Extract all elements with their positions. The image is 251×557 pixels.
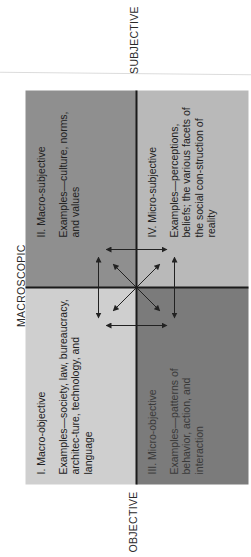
top-rule-line [0, 72, 251, 76]
quadrant-title: I. Macro-objective [34, 297, 47, 474]
quadrant-description: Examples—culture, norms, and values [56, 100, 81, 277]
quadrant-title: II. Macro-subjective [34, 100, 47, 277]
axis-label-subjective: SUBJECTIVE [128, 0, 140, 80]
axis-label-objective: OBJECTIVE [127, 487, 139, 557]
quadrant-diagram: I. Macro-objective Examples—society, law… [25, 90, 248, 484]
bidirectional-arrows-icon [86, 237, 186, 337]
